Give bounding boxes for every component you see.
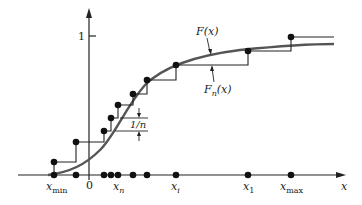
x-1-label: x1 <box>243 180 254 195</box>
cdf-curve <box>48 44 334 175</box>
axes <box>18 8 346 180</box>
x-i-label: xi <box>171 180 180 195</box>
ecdf-label: Fn(x) <box>203 83 232 98</box>
x-axis-label: x <box>341 180 348 193</box>
increment-label: 1/n <box>130 119 146 130</box>
x-n-label: xn <box>113 180 124 195</box>
y-tick-1: 1 <box>78 30 85 43</box>
x-min-label: xmin <box>46 180 68 195</box>
x-max-label: xmax <box>280 180 304 195</box>
cdf-label: F(x) <box>195 25 218 38</box>
label-arrows <box>207 38 214 82</box>
origin-label: 0 <box>86 179 93 192</box>
ecdf-diagram: 1/n F(x) Fn(x) 1 0 x xmin xn xi x1 xmax <box>0 0 362 205</box>
ecdf-dots <box>51 34 295 166</box>
